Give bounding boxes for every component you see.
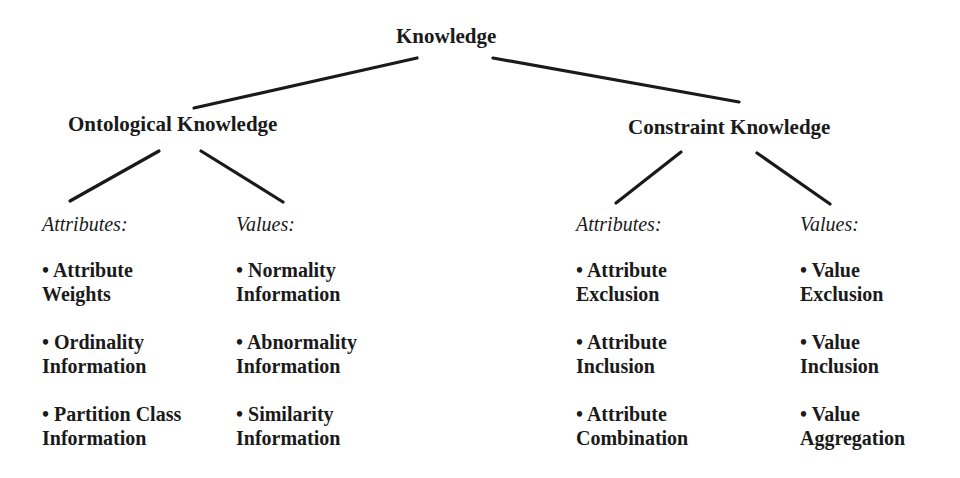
item-line: • Attribute xyxy=(576,402,688,426)
list-item: • Attribute Exclusion xyxy=(576,258,667,306)
list-item: • Ordinality Information xyxy=(42,330,146,378)
list-item: • Value Exclusion xyxy=(800,258,883,306)
list-item: • Similarity Information xyxy=(236,402,340,450)
list-item: • Value Inclusion xyxy=(800,330,879,378)
list-item: • Attribute Combination xyxy=(576,402,688,450)
node-ontological-knowledge: Ontological Knowledge xyxy=(68,114,277,135)
ontological-attributes-heading: Attributes: xyxy=(42,214,128,234)
list-item: • Normality Information xyxy=(236,258,340,306)
item-line: Information xyxy=(236,354,357,378)
ontological-values-heading: Values: xyxy=(236,214,295,234)
item-line: • Value xyxy=(800,330,879,354)
item-line: Information xyxy=(42,354,146,378)
list-item: • Value Aggregation xyxy=(800,402,905,450)
edge-constraint-values xyxy=(757,153,830,204)
edge-root-ontological xyxy=(194,58,417,108)
node-constraint-knowledge: Constraint Knowledge xyxy=(628,117,830,138)
item-line: Information xyxy=(236,282,340,306)
item-line: • Partition Class xyxy=(42,402,181,426)
item-line: • Value xyxy=(800,258,883,282)
item-line: • Value xyxy=(800,402,905,426)
item-line: Weights xyxy=(42,282,133,306)
root-node-knowledge: Knowledge xyxy=(396,26,496,47)
item-line: • Abnormality xyxy=(236,330,357,354)
edge-ontological-attributes xyxy=(70,151,159,201)
edge-ontological-values xyxy=(201,151,283,202)
item-line: • Attribute xyxy=(42,258,133,282)
edge-constraint-attributes xyxy=(616,152,681,203)
item-line: • Similarity xyxy=(236,402,340,426)
item-line: Aggregation xyxy=(800,426,905,450)
item-line: Combination xyxy=(576,426,688,450)
item-line: Inclusion xyxy=(576,354,667,378)
list-item: • Abnormality Information xyxy=(236,330,357,378)
list-item: • Partition Class Information xyxy=(42,402,181,450)
item-line: • Ordinality xyxy=(42,330,146,354)
item-line: • Normality xyxy=(236,258,340,282)
constraint-attributes-heading: Attributes: xyxy=(576,214,662,234)
item-line: Information xyxy=(42,426,181,450)
constraint-values-heading: Values: xyxy=(800,214,859,234)
list-item: • Attribute Inclusion xyxy=(576,330,667,378)
item-line: Information xyxy=(236,426,340,450)
item-line: Exclusion xyxy=(576,282,667,306)
item-line: • Attribute xyxy=(576,330,667,354)
list-item: • Attribute Weights xyxy=(42,258,133,306)
item-line: Inclusion xyxy=(800,354,879,378)
item-line: Exclusion xyxy=(800,282,883,306)
item-line: • Attribute xyxy=(576,258,667,282)
edge-root-constraint xyxy=(493,58,739,102)
